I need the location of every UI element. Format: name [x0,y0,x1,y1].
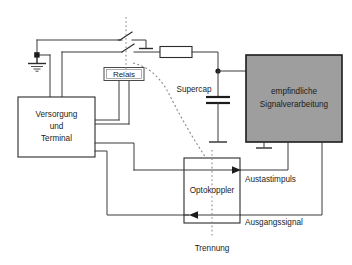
resistor [160,47,218,72]
supercap-label: Supercap [176,85,211,94]
relay-contact-switch [118,32,160,52]
supply-line-3: Terminal [41,134,72,143]
signal-block-line-2: Signalverarbeitung [260,100,329,109]
supply-line-1: Versorgung [36,110,78,119]
signal-block-line-1: empfindliche [271,87,317,96]
supply-line-2: und [50,122,64,131]
optocoupler-label-text: Optokoppler [190,186,235,195]
wire-supply-to-opto-top [95,143,134,170]
trennung-label: Trennung [195,244,230,253]
austastimpuls-label: Austastimpuls [245,175,296,184]
sensitive-signal-processing-block [240,55,342,215]
circuit-schematic: Relais Versorgung und Terminal empfindli… [0,0,352,265]
relay-label-text: Relais [113,70,135,79]
diagram-root: Relais Versorgung und Terminal empfindli… [0,0,352,265]
wire-supply-to-opto-bottom [95,151,189,215]
wire-resistor-to-node [192,52,218,71]
ausgangssignal-label: Ausgangssignal [245,218,303,227]
wire-group-relay-coil [95,80,129,124]
supercap-node [206,68,246,142]
